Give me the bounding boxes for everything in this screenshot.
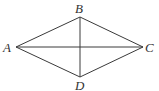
vertex-label-d: D — [74, 78, 85, 91]
vertex-label-c: C — [145, 40, 154, 55]
vertex-label-a: A — [2, 40, 11, 55]
rhombus-diagram: A B C D — [0, 0, 159, 91]
vertex-label-b: B — [75, 1, 83, 16]
